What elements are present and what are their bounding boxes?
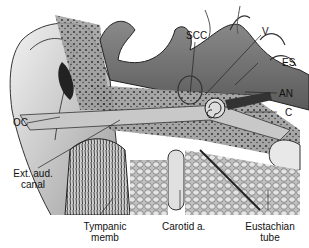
label-es: ES [282, 57, 295, 68]
label-scc: SCC [186, 30, 207, 41]
ear-anatomy-diagram: SCC V ES AN C OC Ext. aud. canal Tympani… [0, 0, 309, 248]
label-v: V [262, 26, 269, 37]
label-tympanic-memb: Tympanic memb [80, 221, 130, 243]
label-oc: OC [13, 117, 28, 128]
label-carotid: Carotid a. [162, 221, 205, 232]
ear-illustration [0, 0, 309, 248]
label-eustachian-tube: Eustachian tube [242, 221, 298, 243]
label-an: AN [279, 88, 293, 99]
label-c: C [285, 107, 292, 118]
label-ext-aud-canal: Ext. aud. canal [8, 168, 58, 190]
